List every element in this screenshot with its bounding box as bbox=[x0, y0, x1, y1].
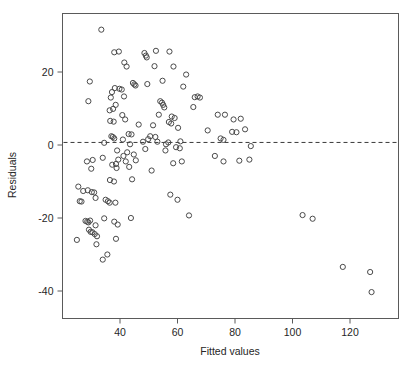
x-axis-title: Fitted values bbox=[200, 345, 260, 357]
y-tick-label: -20 bbox=[38, 212, 53, 224]
x-tick-label: 120 bbox=[341, 326, 359, 338]
y-tick-label: 20 bbox=[42, 66, 54, 78]
plot-canvas: 406080100120 200-20-40 Fitted values Res… bbox=[0, 0, 417, 370]
x-tick-label: 40 bbox=[114, 326, 126, 338]
x-tick-label: 80 bbox=[229, 326, 241, 338]
x-tick-label: 60 bbox=[172, 326, 184, 338]
y-axis-title: Residuals bbox=[6, 152, 18, 198]
y-tick-label: -40 bbox=[38, 285, 53, 297]
residuals-vs-fitted-plot: 406080100120 200-20-40 Fitted values Res… bbox=[0, 0, 417, 370]
y-tick-label: 0 bbox=[48, 139, 54, 151]
x-tick-label: 100 bbox=[284, 326, 302, 338]
